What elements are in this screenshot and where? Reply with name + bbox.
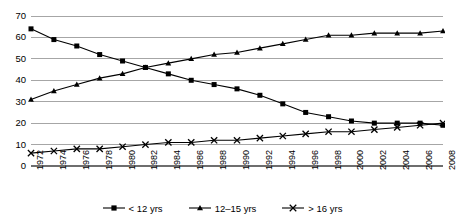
marker-square <box>257 93 262 98</box>
marker-square <box>212 82 217 87</box>
y-tick-label: 50 <box>0 54 26 64</box>
marker-square <box>280 101 285 106</box>
x-tick-label: 1988 <box>218 150 228 170</box>
series-layer <box>28 26 445 156</box>
marker-square <box>349 119 354 124</box>
marker-square <box>120 59 125 64</box>
chart-legend: < 12 yrs12–15 yrs> 16 yrs <box>0 198 445 218</box>
x-tick-label: 1986 <box>195 150 205 170</box>
y-tick-label: 0 <box>0 161 26 171</box>
marker-square <box>303 110 308 115</box>
legend-item[interactable]: < 12 yrs <box>103 202 163 214</box>
x-tick-label: 2004 <box>401 150 411 170</box>
series-line <box>31 29 443 125</box>
marker-square <box>166 71 171 76</box>
legend-label: 12–15 yrs <box>215 203 257 214</box>
marker-square <box>235 86 240 91</box>
x-tick-label: 1974 <box>58 150 68 170</box>
y-tick-label: 40 <box>0 75 26 85</box>
y-tick-label: 30 <box>0 97 26 107</box>
marker-square <box>29 26 34 31</box>
x-tick-label: 1980 <box>127 150 137 170</box>
marker-square <box>372 121 377 126</box>
legend-label: < 12 yrs <box>129 203 163 214</box>
x-tick-label: 1998 <box>333 150 343 170</box>
legend-marker-square <box>103 202 125 214</box>
x-tick-label: 1982 <box>149 150 159 170</box>
legend-label: > 16 yrs <box>308 203 342 214</box>
x-tick-label: 2006 <box>424 150 434 170</box>
x-tick-label: 1976 <box>81 150 91 170</box>
x-tick-label: 1992 <box>264 150 274 170</box>
x-tick-label: 1994 <box>287 150 297 170</box>
marker-square <box>189 78 194 83</box>
series--12-yrs <box>29 26 446 127</box>
x-tick-label: 1996 <box>310 150 320 170</box>
y-tick-label: 20 <box>0 118 26 128</box>
marker-square <box>111 205 116 210</box>
marker-square <box>97 52 102 57</box>
x-tick-label: 1972 <box>35 150 45 170</box>
x-tick-label: 1984 <box>172 150 182 170</box>
series-line <box>31 123 443 153</box>
x-tick-label: 1990 <box>241 150 251 170</box>
x-tick-label: 2002 <box>378 150 388 170</box>
x-tick-label: 2000 <box>355 150 365 170</box>
y-tick-label: 70 <box>0 11 26 21</box>
marker-triangle <box>440 28 445 33</box>
marker-square <box>326 114 331 119</box>
legend-item[interactable]: > 16 yrs <box>282 202 342 214</box>
legend-marker-x <box>282 202 304 214</box>
y-tick-label: 60 <box>0 32 26 42</box>
marker-square <box>74 44 79 49</box>
y-tick-label: 10 <box>0 140 26 150</box>
marker-square <box>51 37 56 42</box>
legend-marker-triangle <box>189 202 211 214</box>
x-tick-label: 2008 <box>447 150 457 170</box>
legend-item[interactable]: 12–15 yrs <box>189 202 257 214</box>
x-tick-label: 1978 <box>104 150 114 170</box>
